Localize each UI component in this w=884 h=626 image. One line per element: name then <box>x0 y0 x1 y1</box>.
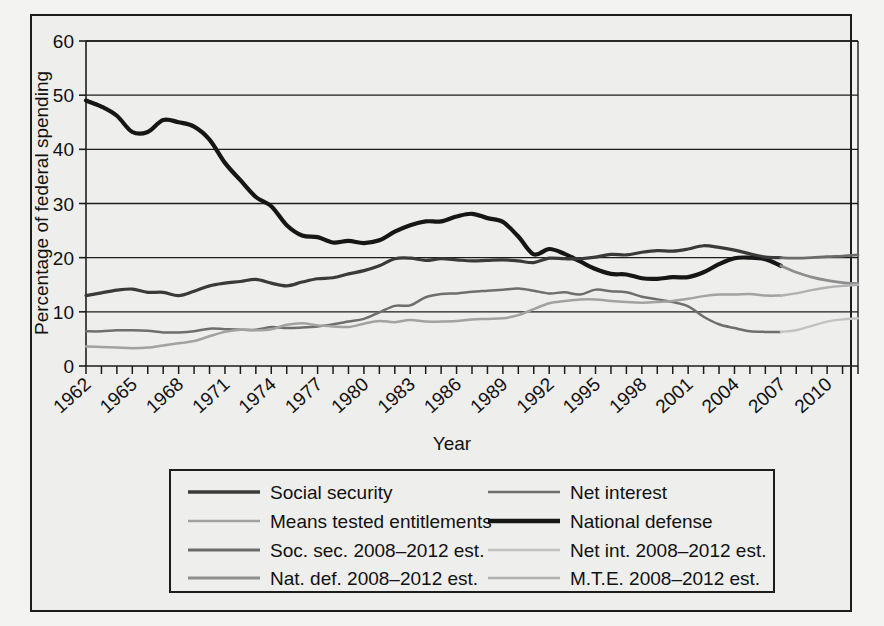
y-tick-label: 10 <box>53 302 74 323</box>
x-tick-label: 2001 <box>651 373 696 417</box>
series-line-net_interest <box>86 289 781 333</box>
x-tick-label: 1986 <box>420 373 465 417</box>
x-tick-label: 1968 <box>142 373 187 417</box>
x-tick-label: 1965 <box>96 373 141 417</box>
legend-label: Soc. sec. 2008–2012 est. <box>270 540 484 561</box>
data-series-layer <box>86 101 781 349</box>
x-axis-tick-labels: 1962196519681971197419771980198319861989… <box>49 373 836 417</box>
x-tick-label: 1983 <box>373 373 418 417</box>
x-tick-label: 2007 <box>744 373 789 417</box>
legend-label: Net int. 2008–2012 est. <box>570 540 766 561</box>
chart-canvas: 0102030405060 19621965196819711974197719… <box>0 0 884 626</box>
y-tick-label: 40 <box>53 139 74 160</box>
legend-label: Social security <box>270 482 393 503</box>
series-line-social_security <box>86 246 781 296</box>
x-tick-label: 1995 <box>559 373 604 417</box>
y-axis-tick-labels: 0102030405060 <box>53 31 74 377</box>
x-tick-label: 1971 <box>188 373 233 417</box>
legend-label: Net interest <box>570 482 668 503</box>
y-axis-title: Percentage of federal spending <box>31 71 52 335</box>
y-tick-label: 30 <box>53 194 74 215</box>
x-tick-label: 1992 <box>512 373 557 417</box>
x-axis-ticks <box>86 366 858 374</box>
x-tick-label: 1962 <box>49 373 94 417</box>
y-tick-label: 50 <box>53 85 74 106</box>
x-tick-label: 2004 <box>698 373 744 417</box>
x-tick-label: 1989 <box>466 373 511 417</box>
x-tick-label: 1980 <box>327 373 372 417</box>
gridlines <box>86 41 858 312</box>
x-tick-label: 1974 <box>234 373 280 417</box>
estimate-line-mte_est <box>781 285 858 296</box>
legend-label: M.T.E. 2008–2012 est. <box>570 568 760 589</box>
chart-legend: Social securityNet interestMeans tested … <box>170 470 774 592</box>
y-axis-ticks <box>79 41 86 366</box>
legend-label: Nat. def. 2008–2012 est. <box>270 568 478 589</box>
y-tick-label: 20 <box>53 248 74 269</box>
y-tick-label: 0 <box>63 356 74 377</box>
legend-label: Means tested entitlements <box>270 511 492 532</box>
y-tick-label: 60 <box>53 31 74 52</box>
estimate-line-net_int_est <box>781 318 858 332</box>
x-tick-label: 2010 <box>790 373 835 417</box>
estimate-series-layer <box>781 255 858 332</box>
x-tick-label: 1977 <box>281 373 326 417</box>
x-axis-title: Year <box>433 433 472 454</box>
legend-label: National defense <box>570 511 713 532</box>
x-tick-label: 1998 <box>605 373 650 417</box>
estimate-line-nat_def_est <box>781 266 858 284</box>
